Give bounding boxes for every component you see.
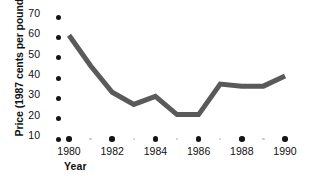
line-series-price [69, 35, 285, 114]
plot-area [0, 0, 311, 178]
chart-figure: Price (1987 cents per pound) 10203040506… [0, 0, 311, 178]
